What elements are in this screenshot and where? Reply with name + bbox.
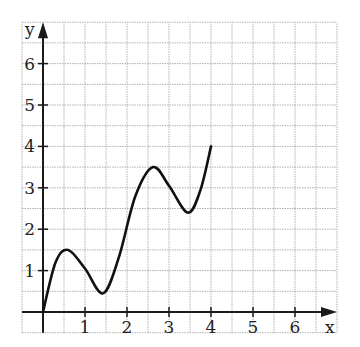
- tick-marks: [38, 64, 295, 317]
- y-axis-label: y: [24, 19, 35, 39]
- y-tick-label: 1: [24, 261, 35, 281]
- y-tick-label: 3: [24, 178, 35, 198]
- y-tick-label: 5: [24, 95, 35, 115]
- y-tick-label: 4: [24, 136, 35, 156]
- x-axis-label: x: [325, 317, 335, 337]
- axes: [22, 22, 337, 333]
- x-tick-label: 1: [80, 317, 91, 337]
- grid: [22, 22, 337, 333]
- x-tick-label: 3: [164, 317, 175, 337]
- y-tick-label: 2: [24, 219, 35, 239]
- y-tick-label: 6: [24, 54, 35, 74]
- function-graph: 123456123456 x y: [0, 0, 360, 347]
- x-tick-label: 5: [248, 317, 259, 337]
- y-axis-arrow-icon: [38, 22, 48, 38]
- x-tick-label: 6: [290, 317, 301, 337]
- tick-labels: 123456123456: [24, 54, 300, 337]
- x-tick-label: 4: [206, 317, 217, 337]
- x-tick-label: 2: [122, 317, 133, 337]
- x-axis-arrow-icon: [321, 307, 337, 317]
